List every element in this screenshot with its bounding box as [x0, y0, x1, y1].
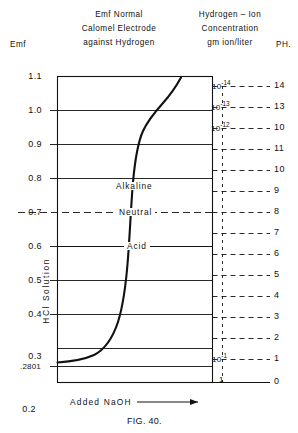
ph-tick-10: 10 — [274, 165, 298, 174]
concentration-label-ph14: 10-14 — [212, 80, 231, 91]
ph-tick-2: 2 — [274, 333, 298, 342]
emf-tick-0.4: 0.4 — [12, 310, 42, 319]
emf-tick-0.6: 0.6 — [12, 242, 42, 251]
ph-tick-5: 5 — [274, 270, 298, 279]
emf-tick-1.0: 1.0 — [12, 106, 42, 115]
naoh-arrow-icon — [137, 399, 198, 405]
concentration-label-ph0: 1 — [219, 376, 224, 384]
emf-tick-0.2: 0.2 — [6, 405, 36, 414]
emf-tick-0.9: 0.9 — [12, 140, 42, 149]
emf-tick-0.7: 0.7 — [12, 208, 42, 217]
conc-mantissa-0: 1 — [219, 375, 224, 384]
ph-tick-6: 6 — [274, 249, 298, 258]
ph-tick-11: 11 — [274, 144, 298, 153]
ph-tick-7: 7 — [274, 228, 298, 237]
emf-tick-1.1: 1.1 — [12, 72, 42, 81]
ph-tick-9: 9 — [274, 186, 298, 195]
emf-tick-2801: .2801 — [20, 363, 41, 371]
ph-tick-13: 13 — [274, 102, 298, 111]
hcl-solution-label: HCl Solution — [41, 258, 51, 324]
titration-curve — [58, 78, 182, 363]
annotation-acid: Acid — [124, 242, 150, 250]
titration-figure: Emf Emf Normal Calomel Electrode against… — [0, 0, 298, 433]
ph-tick-8: 8 — [274, 207, 298, 216]
concentration-label-ph1: 10-1 — [212, 353, 227, 364]
x-axis-label: Added NaOH — [70, 398, 132, 406]
conc-exponent-14: -14 — [221, 79, 230, 86]
plot-frame — [58, 77, 213, 383]
emf-tick-0.5: 0.5 — [12, 276, 42, 285]
conc-exponent-13: -13 — [220, 100, 229, 107]
annotation-alkaline: Alkaline — [113, 182, 156, 190]
figure-caption: FIG. 40. — [127, 417, 162, 426]
ph-tick-3: 3 — [274, 312, 298, 321]
conc-mantissa-14: 10 — [212, 82, 221, 91]
ph-tick-12: 10 — [274, 123, 298, 132]
emf-gridlines — [58, 111, 213, 367]
emf-tick-0.8: 0.8 — [12, 174, 42, 183]
annotation-neutral: Neutral — [116, 208, 155, 216]
ph-tick-4: 4 — [274, 291, 298, 300]
conc-exponent-1: -1 — [221, 352, 227, 359]
conc-exponent-12: -12 — [220, 121, 229, 128]
conc-mantissa-13: 10 — [211, 103, 220, 112]
left-axis-ticks — [50, 111, 58, 367]
ph-tick-14: 14 — [274, 81, 298, 90]
emf-tick-0.3: 0.3 — [12, 352, 42, 361]
concentration-label-ph12: 10-12 — [211, 122, 230, 133]
ph-tick-1: 1 — [274, 354, 298, 363]
conc-mantissa-12: 10 — [211, 124, 220, 133]
conc-mantissa-1: 10 — [212, 355, 221, 364]
concentration-label-ph13: 10-13 — [211, 101, 230, 112]
ph-tick-0: 0 — [274, 377, 298, 386]
